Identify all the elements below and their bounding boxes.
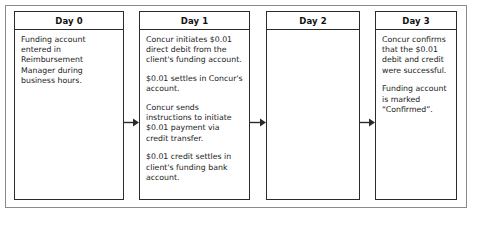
day-3-header: Day 3 <box>376 12 456 30</box>
day-0-header: Day 0 <box>15 12 123 30</box>
right-arrow-icon <box>124 118 139 127</box>
day-column-day-2: Day 2 <box>266 11 360 200</box>
day-column-day-0: Day 0 Funding account entered in Reimbur… <box>14 11 124 200</box>
day-0-paragraph-1: Funding account entered in Reimbursement… <box>21 35 118 86</box>
day-0-body: Funding account entered in Reimbursement… <box>15 30 123 199</box>
day-1-body: Concur initiates $0.01 direct debit from… <box>140 30 249 199</box>
day-2-header: Day 2 <box>267 12 359 30</box>
day-1-paragraph-4: $0.01 credit settles in client's funding… <box>146 152 244 183</box>
day-3-paragraph-1: Concur confirms that the $0.01 debit and… <box>382 35 451 76</box>
day-2-body <box>267 30 359 199</box>
right-arrow-icon <box>250 118 266 127</box>
day-1-paragraph-3: Concur sends instructions to initiate $0… <box>146 103 244 144</box>
diagram-canvas: Day 0 Funding account entered in Reimbur… <box>0 0 480 225</box>
day-1-paragraph-1: Concur initiates $0.01 direct debit from… <box>146 35 244 66</box>
right-arrow-icon <box>360 118 375 127</box>
day-1-header: Day 1 <box>140 12 249 30</box>
day-column-day-3: Day 3 Concur confirms that the $0.01 deb… <box>375 11 457 200</box>
day-1-paragraph-2: $0.01 settles in Concur's account. <box>146 74 244 94</box>
day-3-body: Concur confirms that the $0.01 debit and… <box>376 30 456 199</box>
day-column-day-1: Day 1 Concur initiates $0.01 direct debi… <box>139 11 250 200</box>
day-3-paragraph-2: Funding account is marked “Confirmed”. <box>382 84 451 115</box>
